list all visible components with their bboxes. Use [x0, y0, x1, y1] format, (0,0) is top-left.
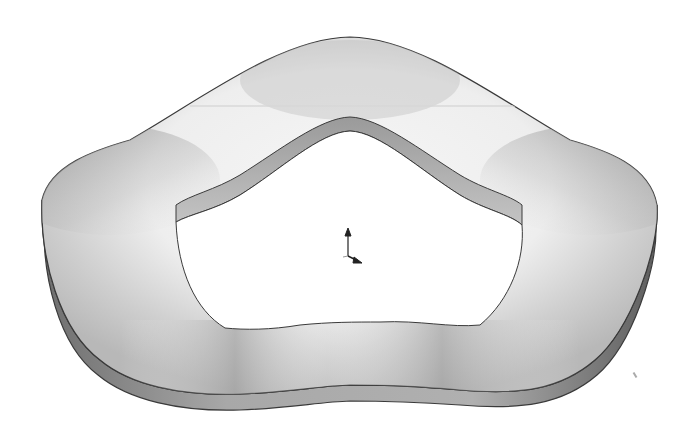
cad-viewport[interactable] [0, 0, 700, 444]
wave-washer-part[interactable] [0, 0, 700, 444]
